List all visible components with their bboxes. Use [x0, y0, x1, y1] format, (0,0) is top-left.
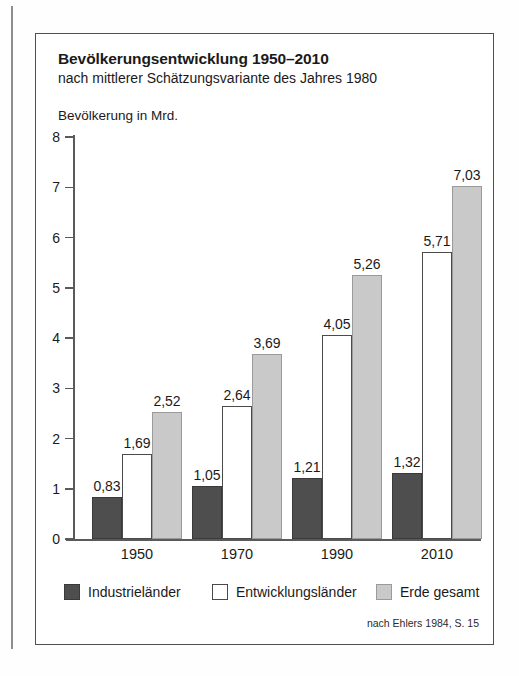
legend-item-developing[interactable]: Entwicklungsländer	[212, 582, 357, 602]
bar-value-label: 7,03	[442, 168, 492, 182]
legend-label: Entwicklungsländer	[236, 584, 357, 600]
bar-2010-industry	[392, 473, 422, 539]
y-axis-tick	[65, 187, 74, 189]
bar-1990-world	[352, 275, 382, 539]
bar-value-label: 3,69	[242, 336, 292, 350]
source-note: nach Ehlers 1984, S. 15	[367, 617, 479, 629]
y-axis-tick	[65, 237, 74, 239]
y-axis-tick-label: 8	[36, 130, 60, 144]
y-axis-tick	[65, 337, 74, 339]
legend: IndustrieländerEntwicklungsländerErde ge…	[64, 582, 484, 604]
y-axis-tick	[65, 287, 74, 289]
legend-swatch-icon	[64, 584, 80, 600]
bar-1970-industry	[192, 486, 222, 539]
y-axis-tick-label: 4	[36, 331, 60, 345]
legend-label: Industrieländer	[88, 584, 181, 600]
y-axis-tick	[65, 136, 74, 138]
bar-1950-industry	[92, 497, 122, 539]
bar-value-label: 5,26	[342, 257, 392, 271]
legend-item-world[interactable]: Erde gesamt	[376, 582, 479, 602]
y-axis-tick-label: 2	[36, 432, 60, 446]
legend-label: Erde gesamt	[400, 584, 479, 600]
page-edge-line	[11, 6, 13, 649]
bar-value-label: 2,52	[142, 394, 192, 408]
legend-swatch-icon	[212, 584, 228, 600]
x-axis-label-1950: 1950	[82, 546, 192, 562]
y-axis-tick-label: 7	[36, 180, 60, 194]
bar-1990-developing	[322, 335, 352, 539]
plot-area: 012345678 0,831,692,521,052,643,691,214,…	[36, 34, 495, 646]
y-axis-tick-label: 0	[36, 532, 60, 546]
y-axis-tick-label: 6	[36, 231, 60, 245]
bar-1970-world	[252, 354, 282, 539]
x-axis-line	[66, 539, 481, 541]
y-axis-tick-label: 1	[36, 482, 60, 496]
legend-swatch-icon	[376, 584, 392, 600]
bar-2010-developing	[422, 252, 452, 539]
bar-1970-developing	[222, 406, 252, 539]
x-axis-label-1970: 1970	[182, 546, 292, 562]
bar-1950-world	[152, 412, 182, 539]
x-axis-label-1990: 1990	[282, 546, 392, 562]
bar-1990-industry	[292, 478, 322, 539]
legend-item-industry[interactable]: Industrieländer	[64, 582, 181, 602]
y-axis-tick-label: 5	[36, 281, 60, 295]
y-axis-tick	[65, 438, 74, 440]
y-axis-tick	[65, 488, 74, 490]
x-axis-label-2010: 2010	[382, 546, 492, 562]
bar-1950-developing	[122, 454, 152, 539]
y-axis-tick-label: 3	[36, 381, 60, 395]
y-axis-tick	[65, 538, 74, 540]
y-axis-tick	[65, 388, 74, 390]
bar-2010-world	[452, 186, 482, 539]
figure-frame: Bevölkerungsentwicklung 1950–2010 nach m…	[35, 33, 494, 645]
